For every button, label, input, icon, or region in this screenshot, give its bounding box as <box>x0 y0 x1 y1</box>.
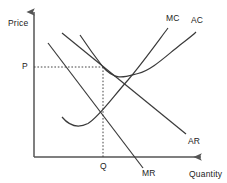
mc-curve <box>62 28 168 126</box>
mr-curve-label: MR <box>142 169 156 178</box>
price-tick-label: P <box>22 62 28 71</box>
economics-diagram: Price Quantity P Q MC AC AR MR <box>0 0 227 183</box>
ar-curve <box>62 33 186 134</box>
ar-curve-label: AR <box>188 137 200 146</box>
mr-curve <box>48 43 143 168</box>
quantity-tick-label: Q <box>100 162 107 171</box>
mc-curve-label: MC <box>166 14 180 23</box>
ac-curve <box>80 32 196 77</box>
x-axis-label: Quantity <box>189 170 222 179</box>
ac-curve-label: AC <box>191 16 203 25</box>
diagram-canvas <box>0 0 227 183</box>
y-axis-label: Price <box>8 19 28 28</box>
